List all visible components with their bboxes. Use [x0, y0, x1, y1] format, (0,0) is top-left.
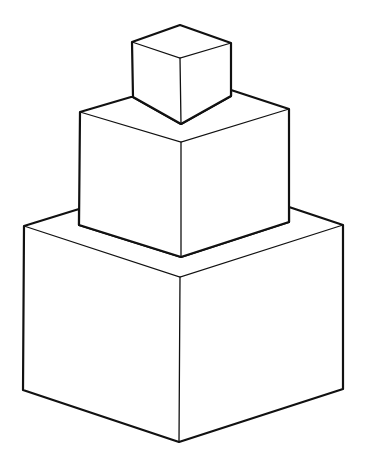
- cubes-drawing: [0, 0, 370, 472]
- stacked-cubes-figure: [0, 0, 370, 472]
